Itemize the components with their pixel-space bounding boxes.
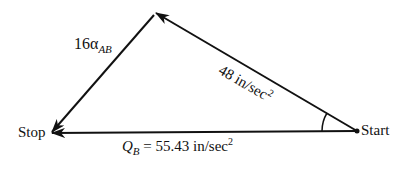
- stop-label: Stop: [18, 124, 46, 141]
- start-label: Start: [361, 122, 389, 139]
- start-point: [355, 129, 360, 134]
- qb-label: QB = 55.43 in/sec2: [122, 136, 233, 157]
- alpha-label: 16αAB: [74, 35, 112, 55]
- angle-arc-icon: [322, 113, 327, 131]
- vector-alpha: [52, 15, 154, 132]
- vector-qb: [52, 131, 357, 133]
